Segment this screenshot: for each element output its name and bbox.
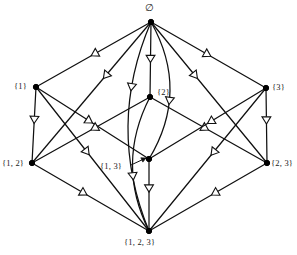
arrowhead-empty-to-s2 [146, 55, 155, 62]
edge-empty-to-s123 [128, 22, 151, 231]
label-leader-layer [131, 156, 147, 165]
arrowhead-s1-to-s12 [30, 116, 39, 124]
node-label-s13: {1, 3} [100, 162, 122, 171]
node-label-s3: {3} [272, 83, 285, 92]
arrowhead-empty-to-s3 [202, 49, 213, 60]
node-label-s12: {1, 2} [2, 159, 24, 168]
node-dot-s13[interactable] [146, 156, 151, 161]
edge-empty-to-s12 [32, 22, 151, 163]
edges-layer [30, 22, 271, 231]
edge-s23-to-s123 [149, 163, 267, 231]
arrowhead-s2-to-s12 [89, 123, 100, 134]
arrowhead-s1-to-s123 [81, 146, 92, 157]
node-label-s2: {2} [157, 88, 170, 97]
arrowhead-empty-to-s123 [127, 83, 137, 91]
lattice-diagram: ∅{1}{2}{3}{1, 2}{1, 3}{2, 3}{1, 2, 3} [0, 0, 297, 255]
node-dot-s12[interactable] [29, 160, 34, 165]
node-label-empty: ∅ [145, 4, 154, 14]
arrowhead-s23-to-s123 [209, 188, 220, 199]
edge-s3-to-s123 [149, 88, 266, 231]
node-label-s1: {1} [14, 82, 27, 91]
arrowhead-empty-to-s13 [165, 97, 175, 105]
node-dot-empty[interactable] [148, 19, 153, 24]
node-dot-s23[interactable] [264, 160, 269, 165]
arrowhead-s13-to-s123 [145, 185, 154, 192]
arrowhead-s3-to-s23 [262, 117, 271, 124]
arrowhead-s12-to-s123 [79, 188, 90, 199]
arrowhead-s2-to-s123 [128, 172, 138, 180]
node-label-s123: {1, 2, 3} [124, 238, 155, 247]
lattice-graph-canvas [0, 0, 297, 255]
node-dot-s3[interactable] [263, 85, 268, 90]
node-dot-s1[interactable] [33, 84, 38, 89]
node-dot-s123[interactable] [146, 228, 151, 233]
node-label-s23: {2, 3} [271, 159, 293, 168]
arrowhead-s3-to-s13 [205, 116, 216, 127]
edge-s1-to-s12 [32, 87, 36, 163]
node-dot-s2[interactable] [147, 94, 152, 99]
arrowhead-empty-to-s1 [89, 48, 100, 59]
edge-s3-to-s23 [266, 88, 267, 163]
